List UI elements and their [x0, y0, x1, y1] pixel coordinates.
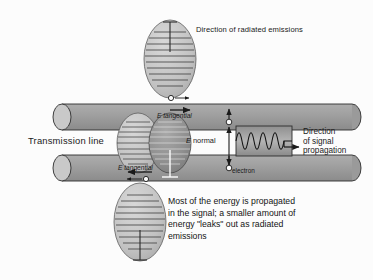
figure-canvas: Direction of radiated emissions Transmis… [0, 0, 373, 280]
label-e-tangential-top: E tangential [157, 112, 192, 120]
top-radiation-lobe [144, 20, 196, 98]
caption-line-3: energy "leaks" out as radiated [168, 219, 283, 229]
label-e-normal: E normal [186, 137, 216, 146]
bottom-radiation-lobe [114, 183, 166, 261]
figure-caption: Most of the energy is propagatedin the s… [168, 196, 295, 243]
lower-transmission-line [53, 155, 361, 181]
direction-signal-line-1: Direction [303, 127, 335, 136]
signal-sine-wave [236, 126, 299, 156]
label-transmission-line: Transmission line [28, 135, 104, 146]
direction-signal-line-2: of signal [303, 137, 334, 146]
label-e-tangential-bottom: E tangential [118, 164, 153, 172]
label-direction-signal-propagation: Directionof signalpropagation [303, 127, 346, 156]
label-electron: electron [232, 167, 255, 175]
caption-line-4: emissions [168, 231, 207, 241]
label-e-normal-text: normal [191, 136, 216, 145]
caption-line-1: Most of the energy is propagated [168, 196, 295, 206]
direction-signal-line-3: propagation [303, 146, 346, 155]
label-direction-radiated-emissions: Direction of radiated emissions [196, 26, 303, 35]
caption-line-2: in the signal; a smaller amount of [168, 208, 295, 218]
